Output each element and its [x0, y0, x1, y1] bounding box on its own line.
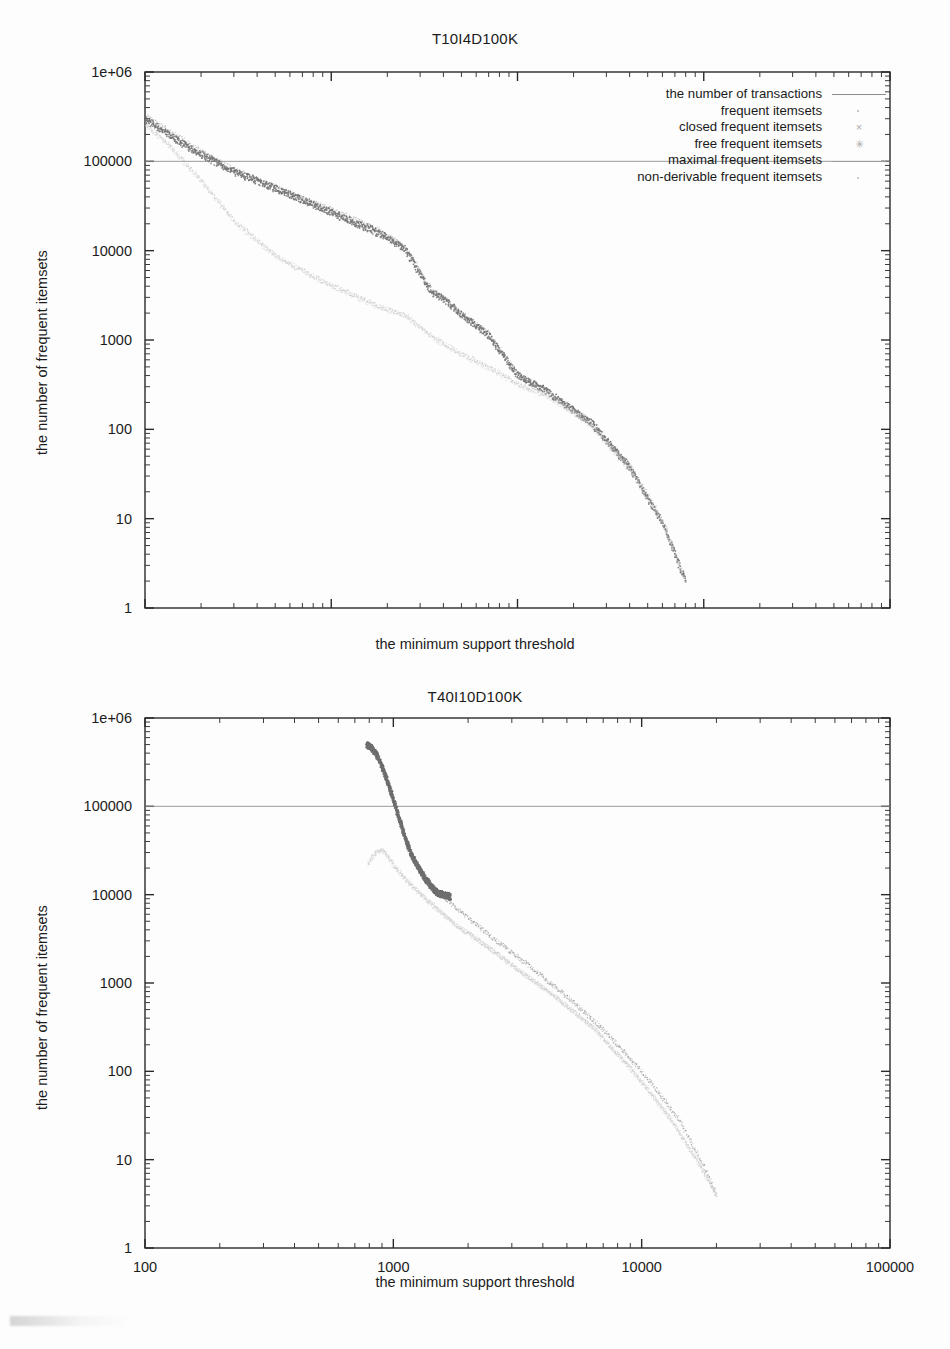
series-free-frequent-itemsets: [365, 742, 451, 901]
legend-item-label: maximal frequent itemsets: [668, 152, 830, 169]
figure-t40i10d100k: T40I10D100K the number of frequent items…: [0, 660, 950, 1300]
series-closed-frequent-itemsets: [144, 116, 686, 582]
legend-1: the number of transactionsfrequent items…: [520, 86, 888, 186]
legend-item: closed frequent itemsets×: [520, 119, 888, 136]
y-tick-label: 1: [124, 1240, 132, 1256]
y-tick-label: 10000: [92, 887, 132, 903]
series-maximal-frequent-itemsets: [145, 121, 686, 582]
y-tick-label: 100: [108, 421, 132, 437]
legend-marker-star-icon: ✳: [830, 136, 888, 152]
legend-item-label: non-derivable frequent itemsets: [637, 169, 830, 186]
x-tick-label: 100000: [866, 1259, 914, 1275]
legend-marker-cross-icon: ×: [830, 119, 888, 135]
y-tick-label: 100000: [84, 798, 132, 814]
y-tick-label: 10: [116, 511, 132, 527]
legend-item-label: the number of transactions: [666, 86, 830, 103]
x-tick-label: 1000: [501, 619, 533, 620]
y-tick-label: 100: [108, 1063, 132, 1079]
x-tick-label: 100: [133, 1259, 157, 1275]
y-tick-label: 1: [124, 600, 132, 616]
x-tick-label: 100000: [866, 619, 914, 620]
legend-marker-dot-icon: [830, 169, 888, 185]
x-tick-label: 10: [137, 619, 153, 620]
x-tick-label: 10000: [622, 1259, 662, 1275]
legend-item-label: frequent itemsets: [721, 103, 830, 120]
legend-marker-line-icon: [830, 86, 888, 102]
series-non-derivable-frequent-itemsets: [367, 850, 717, 1197]
page-artifact: [10, 1316, 130, 1326]
series-maximal-frequent-itemsets: [368, 848, 717, 1197]
page-canvas: T10I4D100K the number of frequent itemse…: [0, 0, 950, 1349]
y-tick-label: 1000: [100, 975, 132, 991]
x-tick-label: 100: [319, 619, 343, 620]
x-tick-label: 1000: [377, 1259, 409, 1275]
y-tick-label: 10: [116, 1152, 132, 1168]
legend-item-label: free frequent itemsets: [694, 136, 830, 153]
x-axis-label: the minimum support threshold: [0, 636, 950, 652]
legend-item-label: closed frequent itemsets: [679, 119, 830, 136]
legend-item: maximal frequent itemsets: [520, 152, 888, 169]
legend-item: the number of transactions: [520, 86, 888, 103]
figure-t10i4d100k: T10I4D100K the number of frequent itemse…: [0, 0, 950, 670]
plot-area-2: 1101001000100001000001e+0610010001000010…: [0, 660, 950, 1280]
legend-item: free frequent itemsets✳: [520, 136, 888, 153]
y-tick-label: 1e+06: [91, 64, 132, 80]
y-tick-label: 1000: [100, 332, 132, 348]
series-frequent-itemsets: [365, 741, 717, 1196]
series-non-derivable-frequent-itemsets: [144, 123, 685, 583]
legend-item: frequent itemsets: [520, 103, 888, 120]
y-tick-label: 10000: [92, 243, 132, 259]
legend-item: non-derivable frequent itemsets: [520, 169, 888, 186]
x-axis-label: the minimum support threshold: [0, 1274, 950, 1290]
legend-marker-line-icon: [830, 153, 888, 169]
y-tick-label: 100000: [84, 153, 132, 169]
series-free-frequent-itemsets: [144, 117, 686, 583]
x-tick-label: 10000: [684, 619, 724, 620]
legend-marker-dot-icon: [830, 103, 888, 119]
y-tick-label: 1e+06: [91, 710, 132, 726]
series-closed-frequent-itemsets: [366, 741, 452, 901]
